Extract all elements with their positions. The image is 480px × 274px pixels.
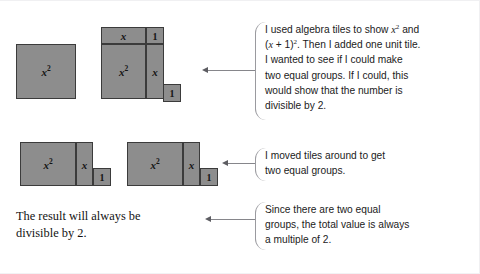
callout-2: I moved tiles around to get two equal gr…	[255, 148, 475, 181]
leader-line-callout-3	[211, 219, 256, 220]
tile-x-squared-row1-b: x2	[101, 44, 146, 99]
tile-label-one: 1	[170, 89, 175, 99]
tile-label-x: x	[189, 160, 195, 171]
tile-unit-row2-b: 1	[200, 168, 218, 186]
tile-x-top-row1-b: x	[101, 27, 146, 44]
leader-line-callout-2	[228, 163, 256, 164]
callout-1-line-2: (x + 1)2. Then I added one unit tile.	[265, 37, 475, 52]
tile-x-right-row2-b: x	[183, 142, 200, 186]
tile-label-x: x	[152, 67, 158, 78]
callout-3-line-1: Since there are two equal	[265, 202, 475, 217]
tile-label-one: 1	[100, 173, 105, 183]
callout-1-line-1: I used algebra tiles to show x2 and	[265, 22, 475, 37]
tile-x-squared-row2-b: x2	[127, 142, 183, 186]
leader-line-callout-1	[208, 70, 256, 71]
tile-label-x-squared: x2	[43, 160, 52, 171]
callout-2-line-2: two equal groups.	[265, 163, 475, 178]
callout-3: Since there are two equal groups, the to…	[255, 202, 475, 250]
tile-x-right-row2-a: x	[76, 142, 93, 186]
tile-label-x: x	[121, 31, 127, 42]
callout-1-line-5: would show that the number is	[265, 83, 475, 98]
tile-label-one: 1	[207, 173, 212, 183]
callout-2-line-1: I moved tiles around to get	[265, 148, 475, 163]
callout-1: I used algebra tiles to show x2 and (x +…	[255, 22, 475, 120]
callout-1-line-3: I wanted to see if I could make	[265, 52, 475, 67]
algebra-tiles-figure: x2 x 1 x2 x 1 x2 x 1 x2 x 1 I	[0, 0, 480, 274]
callout-3-line-2: groups, the total value is always	[265, 217, 475, 232]
conclusion-line-2: divisible by 2.	[16, 225, 216, 242]
callout-1-line-4: two equal groups. If I could, this	[265, 68, 475, 83]
tile-label-x-squared: x2	[119, 67, 128, 78]
tile-x-right-row1-b: x	[146, 44, 164, 99]
tile-label-one: 1	[153, 32, 158, 42]
callout-1-line-6: divisible by 2.	[265, 98, 475, 113]
tile-unit-extra-row1-c: 1	[163, 84, 181, 102]
tile-label-x-squared: x2	[150, 160, 159, 171]
tile-unit-corner-row1-b: 1	[146, 27, 164, 44]
tile-unit-row2-a: 1	[93, 168, 111, 186]
tile-label-x-squared: x2	[41, 67, 50, 78]
tile-x-squared-row2-a: x2	[20, 142, 76, 186]
tile-x-squared-row1-a: x2	[16, 44, 76, 99]
conclusion-line-1: The result will always be	[16, 208, 216, 225]
tile-label-x: x	[82, 160, 88, 171]
callout-3-line-3: a multiple of 2.	[265, 232, 475, 247]
conclusion-text: The result will always be divisible by 2…	[16, 208, 216, 242]
